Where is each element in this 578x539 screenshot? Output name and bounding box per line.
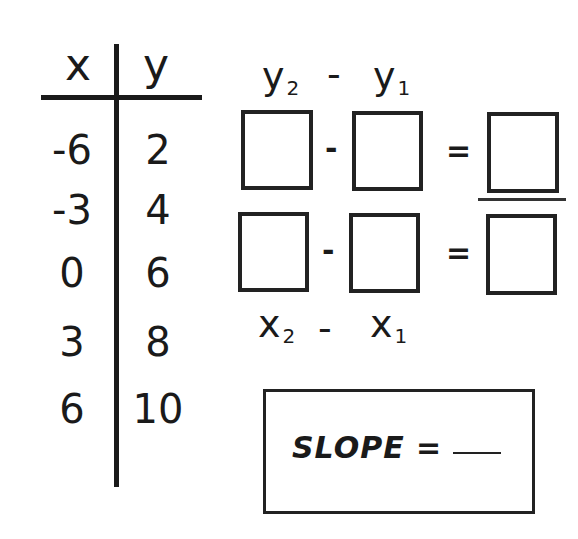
y2-input-box[interactable] (241, 110, 313, 190)
header-y: y (126, 40, 186, 90)
cell-y-4: 10 (118, 385, 198, 433)
cell-x-1: -3 (32, 186, 112, 234)
cell-y-3: 8 (118, 318, 198, 366)
cell-y-1: 4 (118, 186, 198, 234)
table-horizontal-divider (41, 95, 202, 100)
run-result-box[interactable] (486, 214, 557, 295)
label-x1: x1 (370, 302, 407, 358)
header-x: x (48, 40, 108, 90)
cell-x-3: 3 (32, 318, 112, 366)
cell-y-2: 6 (118, 249, 198, 297)
rise-result-box[interactable] (487, 112, 559, 193)
cell-y-0: 2 (118, 126, 198, 174)
bottom-equals-sign: = (446, 238, 471, 268)
top-minus-sign: - (325, 134, 337, 164)
x2-input-box[interactable] (238, 212, 309, 292)
fraction-bar (478, 198, 566, 201)
cell-x-0: -6 (32, 126, 112, 174)
x1-input-box[interactable] (349, 213, 420, 293)
label-bottom-minus: - (318, 306, 332, 350)
label-top-minus: - (327, 52, 341, 96)
top-equals-sign: = (446, 136, 471, 166)
y1-input-box[interactable] (352, 111, 423, 191)
label-x2: x2 (258, 302, 295, 358)
label-y1: y1 (373, 54, 410, 110)
slope-answer-box: SLOPE = (263, 389, 535, 514)
label-y2: y2 (262, 54, 299, 110)
cell-x-2: 0 (32, 249, 112, 297)
slope-answer-blank[interactable] (453, 452, 501, 454)
slope-label: SLOPE = (292, 430, 442, 465)
cell-x-4: 6 (32, 385, 112, 433)
bottom-minus-sign: - (322, 236, 334, 266)
